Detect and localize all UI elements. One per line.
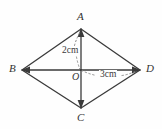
vertex-label-B: B (9, 63, 16, 74)
diagonals (24, 31, 138, 106)
vertex-dots (80, 69, 82, 71)
arrowhead-C-icon (78, 100, 85, 109)
vertex-label-C: C (77, 112, 84, 123)
vertex-label-D: D (146, 63, 154, 74)
vertex-label-A: A (77, 11, 84, 22)
edge-D-A (81, 29, 140, 70)
geometry-figure: A B C D O 2cm 3cm (0, 0, 162, 129)
leader-2cm-lower (77, 57, 80, 69)
leader-3cm-left (82, 71, 97, 76)
arrowhead-A-icon (78, 28, 85, 37)
measurement-label-ao: 2cm (61, 46, 79, 56)
vertex-label-O: O (72, 72, 79, 82)
measurement-label-od: 3cm (99, 70, 117, 80)
leader-2cm-upper (75, 33, 80, 46)
vertex-dot-O (80, 69, 82, 71)
